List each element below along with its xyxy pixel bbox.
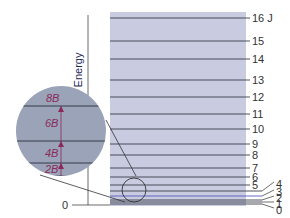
leader-line-J3 xyxy=(262,190,274,196)
level-label-J0: 0 xyxy=(276,204,282,216)
level-label-J10: 10 xyxy=(252,123,264,135)
level-label-J16: 16 J xyxy=(252,12,273,24)
zero-label: 0 xyxy=(62,199,68,211)
leader-line-J4 xyxy=(262,182,274,191)
spacing-4B: 4B xyxy=(45,147,58,159)
inset-magnified-view: 8B 6B 4B 2B xyxy=(10,86,112,176)
level-label-J11: 11 xyxy=(252,108,263,120)
energy-axis-label: Energy xyxy=(72,52,84,87)
leader-line-J0 xyxy=(262,204,274,208)
level-label-J13: 13 xyxy=(252,74,264,86)
leader-line-J2 xyxy=(262,196,274,200)
rotational-energy-level-diagram: 0 Energy 16 J1514131211109876543210 8B 6… xyxy=(0,0,290,218)
level-label-J5: 5 xyxy=(252,179,258,191)
level-label-J12: 12 xyxy=(252,91,264,103)
level-label-J14: 14 xyxy=(252,53,264,65)
spacing-6B: 6B xyxy=(45,117,58,129)
level-label-J15: 15 xyxy=(252,35,264,47)
spacing-2B: 2B xyxy=(44,163,58,175)
spacing-8B: 8B xyxy=(46,92,59,104)
level-labels: 16 J1514131211109876543210 xyxy=(252,12,282,216)
level-label-J8: 8 xyxy=(252,149,258,161)
